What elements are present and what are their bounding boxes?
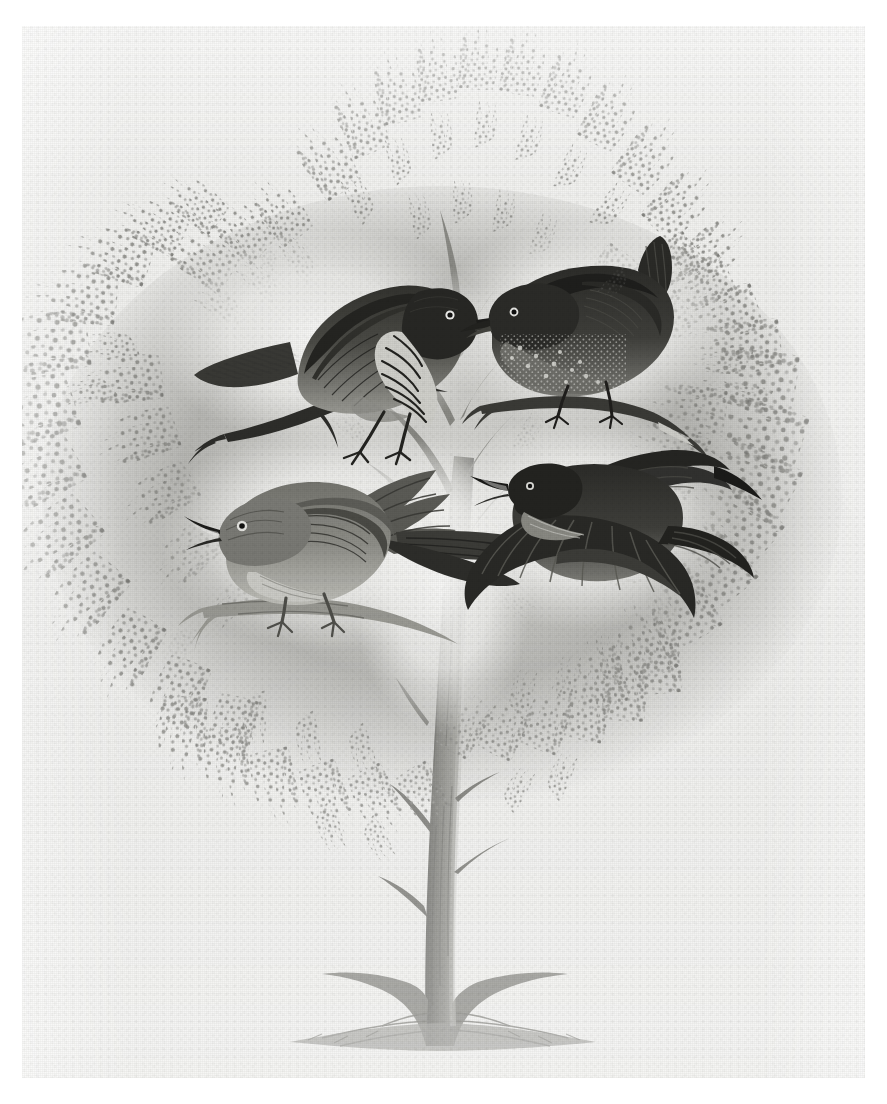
engraving-plate [0, 0, 887, 1104]
paper-field [22, 26, 865, 1078]
artwork-illustration [22, 26, 865, 1078]
